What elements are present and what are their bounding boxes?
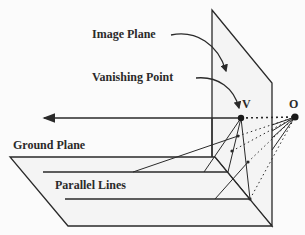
vanishing-point-marker [238,115,244,121]
image-plane-label: Image Plane [92,28,156,40]
ground-plane-label: Ground Plane [13,139,85,151]
parallel-lines-label: Parallel Lines [55,179,126,191]
perspective-diagram: Image Plane Vanishing Point V O Ground P… [0,0,305,235]
horizon-arrow [44,117,295,118]
vanishing-point-label: Vanishing Point [92,71,173,83]
optical-center-marker [291,113,298,120]
projection-rays-solid [272,117,295,150]
o-label: O [289,98,298,110]
v-label: V [242,98,251,110]
